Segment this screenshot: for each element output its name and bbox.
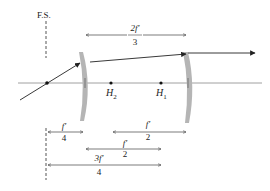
incident-ray — [20, 63, 80, 100]
dim-mid-den: 2 — [123, 149, 128, 159]
dim-fs-h-den: 4 — [97, 167, 102, 177]
h1-label: H1 — [155, 87, 167, 101]
dim-h2-right-den: 2 — [146, 132, 151, 142]
h1-point — [159, 81, 162, 84]
dim-fs-h-num: 3f′ — [94, 153, 105, 163]
dim-fs-lens1-num: f′ — [62, 121, 68, 131]
dim-h2-right-num: f′ — [146, 119, 152, 129]
dim-top-den: 3 — [133, 37, 138, 47]
two-lens-optical-diagram: F.S. H2 H1 2f′ 3 f′ 4 f′ 2 f′ 2 3f′ 4 — [0, 0, 270, 191]
h2-point — [109, 81, 112, 84]
dim-top-num: 2f′ — [131, 23, 141, 33]
dim-mid-num: f′ — [123, 138, 129, 148]
h2-label: H2 — [105, 87, 117, 101]
dim-fs-lens1-den: 4 — [62, 133, 67, 143]
ray-axis-crossing-point — [45, 81, 49, 85]
intermediate-ray — [90, 54, 186, 62]
field-stop-label: F.S. — [37, 10, 51, 20]
lens-1 — [79, 52, 88, 121]
